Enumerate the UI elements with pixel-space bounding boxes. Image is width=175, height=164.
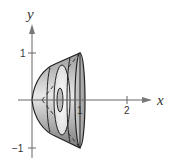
x-axis-arrow-icon <box>142 97 152 103</box>
solid-of-revolution-diagram: y x 1 −1 1 2 <box>0 0 175 164</box>
x-axis-label: x <box>156 92 164 108</box>
x-tick-label-1: 1 <box>77 105 83 116</box>
y-axis-label: y <box>25 6 34 22</box>
y-tick-label-neg1: −1 <box>12 143 24 154</box>
y-tick-label-1: 1 <box>20 48 26 59</box>
x-tick-label-2: 2 <box>124 105 130 116</box>
y-axis-arrow-icon <box>29 24 35 34</box>
